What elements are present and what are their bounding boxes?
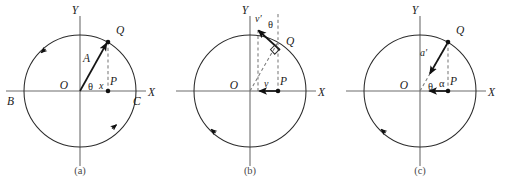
y-axis-label-b: Y xyxy=(242,4,250,16)
caption-a: (a) xyxy=(74,165,86,177)
point-p-label-a: P xyxy=(109,75,117,87)
origin-label-a: O xyxy=(60,79,69,91)
angle-label-c: θ xyxy=(428,81,433,92)
angle-label-b: θ xyxy=(268,19,273,30)
projection-label-a: x xyxy=(98,80,104,91)
physics-figure: Y X O Q P A θ x B C (a) xyxy=(0,0,506,181)
rotation-arrow-a-lower-right xyxy=(112,125,116,129)
point-q-marker-c xyxy=(446,40,451,45)
point-q-label-c: Q xyxy=(456,24,465,36)
point-q-marker-a xyxy=(106,40,111,45)
y-axis-label-a: Y xyxy=(72,4,80,16)
tangential-velocity-label-b: v′ xyxy=(255,13,262,24)
point-p-marker-c xyxy=(446,89,451,94)
x-axis-label-a: X xyxy=(147,86,156,98)
centripetal-acceleration-vector-c xyxy=(430,44,447,74)
x-axis-label-c: X xyxy=(487,86,496,98)
angle-label-a: θ xyxy=(88,81,93,92)
projected-acceleration-label-c: α xyxy=(439,78,445,89)
panel-b-velocity: Y X O Q P v′ θ v (b) xyxy=(170,0,340,181)
point-p-label-c: P xyxy=(449,75,457,87)
origin-label-b: O xyxy=(230,79,239,91)
centripetal-acceleration-label-c: a′ xyxy=(420,47,428,58)
point-q-label-b: Q xyxy=(286,35,295,47)
panel-c-acceleration: Y X O Q P a′ θ α (c) xyxy=(340,0,506,181)
right-endpoint-label-a: C xyxy=(133,95,141,107)
projected-velocity-label-b: v xyxy=(264,78,269,89)
x-axis-label-b: X xyxy=(317,86,326,98)
point-p-label-b: P xyxy=(279,75,287,87)
point-p-marker-b xyxy=(276,89,281,94)
origin-label-c: O xyxy=(400,79,409,91)
vector-label-a: A xyxy=(82,52,91,64)
caption-b: (b) xyxy=(244,165,257,177)
y-axis-label-c: Y xyxy=(412,4,420,16)
point-q-label-a: Q xyxy=(116,24,125,36)
point-p-marker-a xyxy=(106,89,111,94)
left-endpoint-label-a: B xyxy=(7,95,14,107)
panel-a-displacement: Y X O Q P A θ x B C (a) xyxy=(0,0,170,181)
caption-c: (c) xyxy=(414,165,426,177)
